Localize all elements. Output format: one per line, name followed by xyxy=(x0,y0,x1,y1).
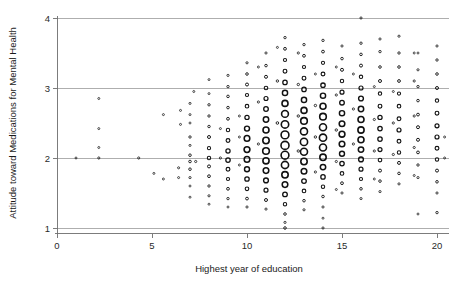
data-point xyxy=(360,198,362,200)
data-point xyxy=(397,151,400,154)
data-point xyxy=(378,126,382,130)
data-point xyxy=(208,203,210,205)
data-point xyxy=(352,73,354,75)
data-point xyxy=(162,114,164,116)
data-point xyxy=(301,107,307,113)
y-axis-title: Attitude toward Medications for Mental H… xyxy=(7,27,18,219)
data-point xyxy=(397,128,401,132)
data-point xyxy=(189,102,191,104)
data-point xyxy=(301,97,306,102)
data-point xyxy=(189,177,191,179)
data-point xyxy=(358,117,364,123)
data-point xyxy=(226,149,230,153)
data-point xyxy=(282,172,288,178)
data-point xyxy=(358,147,363,152)
data-point xyxy=(265,52,267,54)
data-point xyxy=(195,160,197,162)
data-point xyxy=(413,175,415,177)
y-tick-label: 1 xyxy=(45,223,50,234)
data-point xyxy=(322,195,325,198)
data-point xyxy=(98,157,100,159)
x-tick-label: 5 xyxy=(149,240,154,251)
x-tick-label: 0 xyxy=(54,240,59,251)
y-tick-label: 2 xyxy=(45,153,50,164)
data-point xyxy=(193,91,195,93)
data-point xyxy=(227,197,229,199)
data-point xyxy=(227,117,230,120)
data-point xyxy=(238,136,240,138)
data-point xyxy=(417,113,420,116)
data-point xyxy=(379,169,382,172)
tick-labels-group: 123405101520 xyxy=(45,13,443,251)
data-point xyxy=(436,211,438,213)
data-point xyxy=(301,118,308,125)
data-point xyxy=(320,124,327,131)
data-point xyxy=(281,121,288,128)
data-point xyxy=(436,87,439,90)
data-point xyxy=(314,73,316,75)
data-point xyxy=(417,213,419,215)
data-point xyxy=(246,83,249,86)
data-point xyxy=(263,137,269,143)
data-point xyxy=(75,157,77,159)
data-point xyxy=(320,154,326,160)
data-point xyxy=(373,150,375,152)
data-point xyxy=(238,164,240,166)
data-point xyxy=(246,206,248,208)
data-point xyxy=(246,73,249,76)
data-point xyxy=(341,182,344,185)
data-points-group xyxy=(75,17,446,229)
data-point xyxy=(339,141,345,147)
data-point xyxy=(226,177,229,180)
data-point xyxy=(358,127,364,133)
data-point xyxy=(208,104,210,106)
data-point xyxy=(435,124,439,128)
data-point xyxy=(138,157,140,159)
data-point xyxy=(378,158,382,162)
data-point xyxy=(373,118,375,120)
data-point xyxy=(360,188,363,191)
data-point xyxy=(359,177,362,180)
data-point xyxy=(397,92,400,95)
data-point xyxy=(301,148,308,155)
data-point xyxy=(98,98,100,100)
data-point xyxy=(227,206,229,208)
data-point xyxy=(238,115,240,117)
data-point xyxy=(360,42,362,44)
data-point xyxy=(245,187,249,191)
data-point xyxy=(436,181,439,184)
data-point xyxy=(219,128,221,130)
data-point xyxy=(341,57,344,60)
data-point xyxy=(413,80,415,82)
data-point xyxy=(335,160,337,162)
data-point xyxy=(207,147,210,150)
data-point xyxy=(189,196,191,198)
data-point xyxy=(226,139,230,143)
data-point xyxy=(282,111,289,118)
data-point xyxy=(413,146,415,148)
data-point xyxy=(417,99,420,102)
data-point xyxy=(398,35,400,37)
data-point xyxy=(340,172,344,176)
data-point xyxy=(392,122,394,124)
data-point xyxy=(98,128,100,130)
data-point xyxy=(98,147,100,149)
data-point xyxy=(340,100,345,105)
data-point xyxy=(178,177,180,179)
data-point xyxy=(208,175,211,178)
data-point xyxy=(436,192,438,194)
data-point xyxy=(321,175,325,179)
data-point xyxy=(207,156,210,159)
data-point xyxy=(436,45,438,47)
data-point xyxy=(392,153,394,155)
data-point xyxy=(320,103,326,109)
data-point xyxy=(227,106,230,109)
data-point xyxy=(335,94,337,96)
data-point xyxy=(245,93,248,96)
data-point xyxy=(276,122,279,125)
data-point xyxy=(264,107,269,112)
data-point xyxy=(246,197,249,200)
data-point xyxy=(322,39,324,41)
data-point xyxy=(379,50,381,52)
data-point xyxy=(180,123,182,125)
